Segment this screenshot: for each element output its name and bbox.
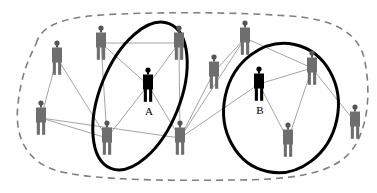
- person-torso: [307, 58, 317, 73]
- person-leg-right: [246, 42, 249, 55]
- node-layer: [36, 20, 360, 156]
- person-leg-left: [284, 144, 287, 157]
- person-leg-left: [241, 42, 244, 55]
- person-neck: [354, 109, 356, 112]
- person-node: [350, 104, 360, 138]
- person-leg-right: [102, 47, 105, 60]
- person-leg-left: [210, 76, 213, 89]
- person-head: [352, 104, 357, 109]
- person-head: [145, 67, 150, 72]
- person-leg-left: [37, 122, 40, 135]
- node-label-layer: AB: [145, 104, 264, 117]
- person-neck: [147, 72, 149, 75]
- network-boundary: [17, 13, 368, 181]
- person-node-highlighted: [254, 66, 264, 100]
- person-leg-left: [176, 142, 179, 155]
- person-torso: [52, 48, 62, 63]
- person-torso: [96, 33, 106, 48]
- node-label-a: A: [145, 105, 153, 117]
- person-leg-right: [215, 76, 218, 89]
- person-node: [102, 120, 112, 154]
- edge-layer: [41, 38, 355, 140]
- person-leg-left: [144, 89, 147, 102]
- person-torso: [350, 112, 360, 127]
- node-label-b: B: [256, 104, 263, 116]
- person-torso: [143, 75, 153, 90]
- person-leg-left: [103, 142, 106, 155]
- network-edge: [41, 118, 107, 138]
- person-leg-right: [180, 47, 183, 60]
- person-node: [240, 20, 250, 54]
- person-node-highlighted: [143, 67, 153, 101]
- person-head: [38, 100, 43, 105]
- person-leg-left: [53, 62, 56, 75]
- person-head: [98, 25, 103, 30]
- person-node: [209, 54, 219, 88]
- network-boundary-layer: [17, 13, 368, 181]
- person-neck: [178, 30, 180, 33]
- person-neck: [40, 105, 42, 108]
- cluster-outline-b: [212, 33, 351, 184]
- person-leg-right: [356, 126, 359, 139]
- person-leg-left: [97, 47, 100, 60]
- network-edge: [259, 68, 312, 84]
- person-head: [176, 25, 181, 30]
- person-torso: [174, 33, 184, 48]
- person-neck: [179, 125, 181, 128]
- person-torso: [283, 130, 293, 145]
- person-leg-right: [289, 144, 292, 157]
- person-head: [256, 66, 261, 71]
- person-neck: [100, 30, 102, 33]
- person-leg-right: [108, 142, 111, 155]
- person-neck: [213, 59, 215, 62]
- person-head: [104, 120, 109, 125]
- person-leg-right: [42, 122, 45, 135]
- person-leg-right: [149, 89, 152, 102]
- person-leg-right: [260, 88, 263, 101]
- person-torso: [209, 62, 219, 77]
- person-neck: [56, 45, 58, 48]
- person-node: [175, 120, 185, 154]
- person-head: [54, 40, 59, 45]
- person-torso: [254, 74, 264, 89]
- person-neck: [287, 127, 289, 130]
- person-leg-right: [58, 62, 61, 75]
- person-leg-left: [308, 72, 311, 85]
- person-head: [211, 54, 216, 59]
- person-torso: [240, 28, 250, 43]
- cluster-outline-layer: [74, 9, 351, 184]
- person-head: [309, 50, 314, 55]
- network-edge: [180, 84, 259, 138]
- person-neck: [244, 25, 246, 28]
- person-torso: [175, 128, 185, 143]
- person-leg-right: [181, 142, 184, 155]
- network-canvas: AB: [0, 0, 377, 193]
- person-torso: [102, 128, 112, 143]
- person-head: [285, 122, 290, 127]
- social-network-diagram: AB: [0, 0, 377, 193]
- person-leg-left: [175, 47, 178, 60]
- person-leg-left: [255, 88, 258, 101]
- person-node: [283, 122, 293, 156]
- person-node: [52, 40, 62, 74]
- person-node: [96, 25, 106, 59]
- person-neck: [258, 71, 260, 74]
- person-neck: [311, 55, 313, 58]
- person-head: [242, 20, 247, 25]
- person-torso: [36, 108, 46, 123]
- person-neck: [106, 125, 108, 128]
- person-head: [177, 120, 182, 125]
- person-leg-left: [351, 126, 354, 139]
- network-edge: [101, 43, 148, 85]
- person-leg-right: [313, 72, 316, 85]
